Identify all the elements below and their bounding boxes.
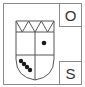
label-box-o: O: [59, 4, 81, 27]
charge-dot: [42, 41, 47, 46]
label-s: S: [65, 66, 75, 81]
symbol-frame: O S: [3, 3, 82, 85]
charge-bend-dot: [28, 68, 32, 72]
coat-of-arms-shield-icon: [14, 19, 56, 81]
label-box-s: S: [59, 61, 81, 84]
label-o: O: [65, 8, 77, 23]
